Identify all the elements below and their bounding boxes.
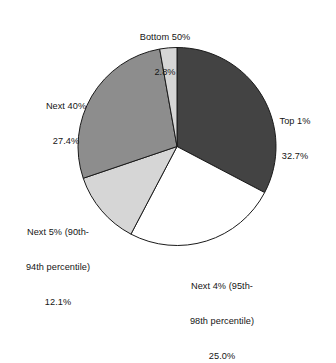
slice-label-next-5-name-line1: Next 5% (90th- (6, 227, 110, 239)
slice-label-top-1: Top 1% 32.7% (258, 93, 332, 186)
slice-label-top-1-value: 32.7% (258, 151, 332, 163)
slice-label-next-5-value: 12.1% (6, 297, 110, 309)
slice-label-next-4-name-line1: Next 4% (95th- (166, 281, 278, 293)
slice-label-bottom-50: Bottom 50% 2.8% (110, 9, 220, 102)
slice-label-next-4-name-line2: 98th percentile) (166, 316, 278, 328)
slice-label-next-40: Next 40% 27.4% (22, 78, 110, 171)
slice-label-bottom-50-value: 2.8% (110, 67, 220, 79)
slice-label-next-40-name: Next 40% (22, 101, 110, 113)
slice-label-top-1-name: Top 1% (258, 116, 332, 128)
slice-label-bottom-50-name: Bottom 50% (110, 32, 220, 44)
slice-label-next-5-name-line2: 94th percentile) (6, 262, 110, 274)
slice-label-next-4: Next 4% (95th- 98th percentile) 25.0% (166, 258, 278, 363)
slice-label-next-40-value: 27.4% (22, 136, 110, 148)
slice-label-next-5: Next 5% (90th- 94th percentile) 12.1% (6, 204, 110, 332)
slice-label-next-4-value: 25.0% (166, 351, 278, 363)
